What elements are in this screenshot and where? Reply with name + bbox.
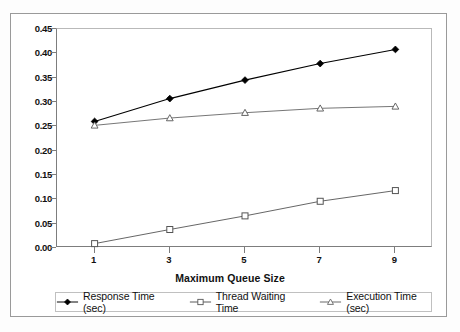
data-point-open-square — [392, 188, 398, 194]
chart-figure: 0.000.050.100.150.200.250.300.350.400.45… — [0, 0, 460, 332]
data-point-filled-diamond — [242, 77, 249, 84]
y-axis-tick-label: 0.25 — [14, 120, 52, 131]
y-axis-tick-label: 0.10 — [14, 193, 52, 204]
data-point-open-square — [92, 241, 98, 247]
x-axis-tick-mark — [319, 247, 320, 253]
x-axis-tick-mark — [244, 247, 245, 253]
data-point-open-square — [317, 198, 323, 204]
legend-item-label: Thread Waiting Time — [216, 290, 299, 314]
legend-marker-open-triangle-icon — [319, 296, 342, 308]
y-axis-tick-label: 0.15 — [14, 169, 52, 180]
x-axis-tick-mark — [169, 247, 170, 253]
data-point-filled-diamond — [166, 95, 173, 102]
series-canvas — [57, 29, 433, 248]
x-axis-tick-label: 3 — [166, 254, 171, 265]
legend-item-label: Execution Time (sec) — [346, 290, 431, 314]
series-2 — [92, 188, 399, 247]
y-axis-tick-label: 0.40 — [14, 47, 52, 58]
x-axis-tick-label: 9 — [392, 254, 397, 265]
data-point-open-square — [167, 227, 173, 233]
chart-legend: Response Time (sec)Thread Waiting TimeEx… — [55, 292, 432, 312]
data-point-filled-diamond — [392, 46, 399, 53]
data-point-open-square — [198, 299, 203, 304]
x-axis-tick-mark — [94, 247, 95, 253]
data-point-filled-diamond — [64, 299, 70, 305]
legend-item: Thread Waiting Time — [189, 290, 299, 314]
y-axis-tick-label: 0.05 — [14, 217, 52, 228]
x-axis-tick-label: 5 — [241, 254, 246, 265]
x-axis-title: Maximum Queue Size — [0, 272, 460, 284]
y-axis-tick-label: 0.00 — [14, 242, 52, 253]
x-axis-tick-label: 1 — [91, 254, 96, 265]
legend-item-label: Response Time (sec) — [83, 290, 169, 314]
x-axis-tick-label: 7 — [317, 254, 322, 265]
legend-item: Execution Time (sec) — [319, 290, 431, 314]
plot-area — [56, 28, 432, 247]
y-axis-tick-mark — [51, 247, 56, 248]
y-axis-tick-label: 0.30 — [14, 96, 52, 107]
legend-marker-filled-diamond-icon — [56, 296, 79, 308]
legend-item: Response Time (sec) — [56, 290, 169, 314]
data-point-filled-diamond — [317, 60, 324, 67]
x-axis-tick-mark — [394, 247, 395, 253]
y-axis-tick-label: 0.35 — [14, 71, 52, 82]
y-axis-tick-label: 0.20 — [14, 144, 52, 155]
legend-marker-open-square-icon — [189, 296, 212, 308]
y-axis-tick-label: 0.45 — [14, 23, 52, 34]
series-3 — [91, 103, 399, 128]
data-point-open-square — [242, 213, 248, 219]
